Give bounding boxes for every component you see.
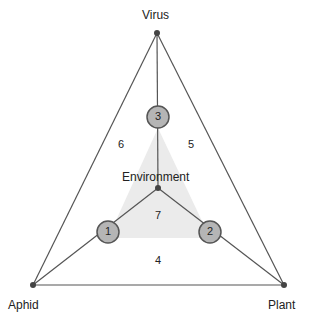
vertex-virus-label: Virus: [142, 8, 169, 22]
virus-dot: [154, 30, 160, 36]
interaction-diagram: [0, 0, 313, 321]
node-2-label: 2: [207, 225, 213, 237]
edge-virus-plant: [157, 33, 284, 285]
region-4: 4: [155, 254, 161, 266]
environment-dot: [155, 185, 161, 191]
vertex-aphid-label: Aphid: [8, 298, 39, 312]
region-6: 6: [118, 138, 124, 150]
edge-virus-aphid: [33, 33, 157, 285]
node-1-label: 1: [105, 225, 111, 237]
aphid-dot: [30, 282, 36, 288]
plant-dot: [281, 282, 287, 288]
region-5: 5: [188, 138, 194, 150]
environment-label: Environment: [122, 170, 189, 184]
vertex-plant-label: Plant: [268, 298, 295, 312]
region-7: 7: [155, 209, 161, 221]
node-3-label: 3: [155, 110, 161, 122]
